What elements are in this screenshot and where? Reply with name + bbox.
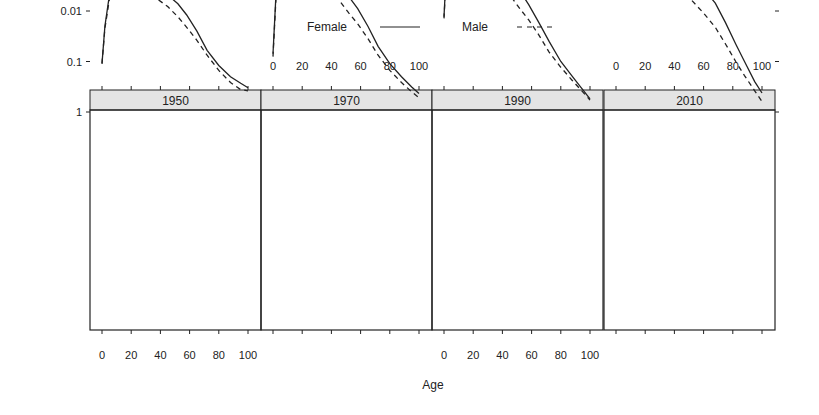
x-tick-label: 20 <box>296 60 308 72</box>
panel-frame <box>604 110 775 330</box>
strip-label: 1990 <box>504 94 531 108</box>
panel-frame <box>90 110 261 330</box>
series-male <box>273 0 419 98</box>
x-tick-label: 20 <box>125 349 137 361</box>
strip-label: 2010 <box>676 94 703 108</box>
x-tick-label: 100 <box>753 60 771 72</box>
x-tick-label: 80 <box>727 60 739 72</box>
x-tick-label: 80 <box>555 349 567 361</box>
panel-frame <box>432 110 603 330</box>
x-tick-label: 60 <box>183 349 195 361</box>
panel-1950: 1950020406080100 <box>90 0 261 361</box>
x-tick-label: 20 <box>467 349 479 361</box>
series-male <box>444 0 590 100</box>
strip-label: 1950 <box>162 94 189 108</box>
x-axis-label: Age <box>422 378 444 392</box>
x-tick-label: 60 <box>525 349 537 361</box>
x-tick-label: 80 <box>213 349 225 361</box>
series-female <box>616 0 762 93</box>
lattice-chart: FemaleMale 19500204060801001970020406080… <box>0 0 819 415</box>
series-female <box>273 0 419 94</box>
x-tick-label: 60 <box>354 60 366 72</box>
panel-frame <box>261 110 432 330</box>
x-tick-label: 0 <box>441 349 447 361</box>
legend: FemaleMale <box>307 20 555 34</box>
x-tick-label: 40 <box>496 349 508 361</box>
panel-1990: 1990020406080100 <box>432 0 603 361</box>
y-tick-label: 0.1 <box>67 56 82 68</box>
series-male <box>616 0 762 102</box>
legend-label-female: Female <box>307 20 347 34</box>
x-tick-label: 40 <box>668 60 680 72</box>
x-tick-label: 100 <box>581 349 599 361</box>
legend-label-male: Male <box>462 20 488 34</box>
x-tick-label: 40 <box>325 60 337 72</box>
strip-label: 1970 <box>333 94 360 108</box>
series-male <box>102 0 248 91</box>
x-tick-label: 100 <box>410 60 428 72</box>
x-tick-label: 0 <box>99 349 105 361</box>
y-tick-label: 1 <box>76 106 82 118</box>
x-tick-label: 0 <box>613 60 619 72</box>
panels: 1950020406080100197002040608010019900204… <box>90 0 775 361</box>
panel-1970: 1970020406080100 <box>261 0 432 334</box>
panel-2010: 2010020406080100 <box>604 0 775 334</box>
x-tick-label: 40 <box>154 349 166 361</box>
y-tick-label: 0.01 <box>61 5 82 17</box>
x-tick-label: 20 <box>639 60 651 72</box>
x-tick-label: 100 <box>239 349 257 361</box>
x-tick-label: 60 <box>697 60 709 72</box>
series-female <box>444 0 590 99</box>
x-tick-label: 0 <box>270 60 276 72</box>
